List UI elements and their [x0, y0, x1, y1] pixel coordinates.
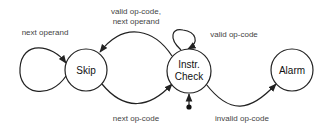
- label-valid-opcode-next-operand-line2: next operand: [113, 17, 160, 26]
- state-check-label-line1: Instr.: [178, 59, 200, 70]
- state-diagram: Skip Instr. Check Alarm next operand val…: [0, 0, 329, 129]
- edge-skip-to-check: [102, 84, 172, 104]
- state-check-label-line2: Check: [175, 71, 204, 82]
- state-alarm-label: Alarm: [279, 65, 305, 76]
- state-alarm: Alarm: [271, 49, 313, 91]
- edge-check-to-alarm: [206, 84, 276, 106]
- label-invalid-opcode: invalid op-code: [215, 114, 269, 123]
- edge-skip-self: [20, 48, 66, 92]
- label-valid-opcode: valid op-code: [210, 30, 258, 39]
- label-next-opcode: next op-code: [113, 114, 160, 123]
- label-next-operand: next operand: [22, 28, 69, 37]
- state-skip: Skip: [65, 49, 107, 91]
- state-skip-label: Skip: [76, 65, 96, 76]
- initial-state-dot: [186, 104, 191, 109]
- edge-check-to-skip: [100, 32, 172, 56]
- label-valid-opcode-next-operand-line1: valid op-code,: [111, 7, 161, 16]
- state-instr-check: Instr. Check: [167, 49, 211, 93]
- edge-check-self: [173, 30, 195, 50]
